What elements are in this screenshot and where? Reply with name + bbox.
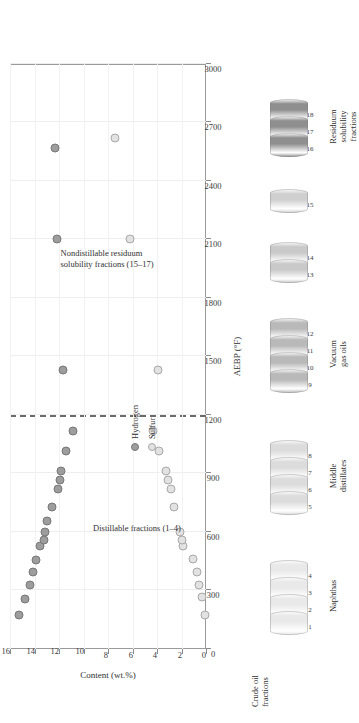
data-point-hydrogen [55,476,64,485]
gridline-horizontal [182,64,183,649]
x-axis-tick-label: 1800 [205,298,222,308]
y-axis-tick [108,649,109,654]
legend-label-hydrogen: Hydrogen [130,405,140,439]
barrel-icon [270,259,308,283]
gridline-horizontal [157,64,158,649]
data-point-hydrogen [43,517,52,526]
y-axis-tick [10,649,11,654]
barrels-header-line1: Crude oil [250,675,260,707]
barrel-stack: 1234 [270,557,310,635]
y-axis-title: Content (wt.%) [80,670,136,680]
barrel-group-label-line: solubility [338,96,348,157]
data-point-hydrogen [58,366,67,375]
barrel-group: 9101112Vacuumgas oils [270,315,310,393]
barrel-icon [270,611,308,635]
data-point-hydrogen [32,556,41,565]
x-axis-tick-label: 600 [207,532,220,542]
hydrogen-marker-icon [131,443,139,451]
data-point-hydrogen [56,466,65,475]
barrel-group: 15 [270,186,310,213]
barrel-number-label: 2 [308,606,312,614]
data-point-sulfur [193,567,202,576]
annotation-nondistillable-line2: solubility fractions (15–17) [60,259,153,270]
barrel-group-label-line: Residuum [328,96,338,157]
gridline-horizontal [10,64,11,649]
gridline-horizontal [84,64,85,649]
data-point-hydrogen [39,535,48,544]
annotation-nondistillable-line1: Nondistillable residuum [60,248,153,259]
data-point-hydrogen [48,502,57,511]
y-axis-tick-label: 16 [2,646,11,656]
legend: Hydrogen Sulfur [130,405,164,451]
barrel-stack: 5678 [270,437,310,515]
barrel-group: 1314 [270,239,310,283]
gridline-horizontal [133,64,134,649]
barrel-stack: 15 [270,186,310,213]
gridline-horizontal [59,64,60,649]
x-axis-title: AEBP (°F) [232,64,242,649]
barrel-number-label: 9 [308,381,312,389]
barrel-icon [270,133,308,157]
data-point-hydrogen [28,567,37,576]
data-point-hydrogen [21,595,30,604]
y-axis-tick-label: 14 [26,646,35,656]
data-point-sulfur [201,610,210,619]
barrel-stack: 161718 [270,96,310,157]
barrel-group-label: Naphthas [328,557,338,635]
sulfur-marker-icon [148,443,156,451]
data-point-sulfur [126,235,135,244]
data-point-sulfur [178,535,187,544]
barrel-icon [270,369,308,393]
x-axis-tick-label: 300 [207,591,220,601]
data-point-sulfur [167,485,176,494]
data-point-sulfur [169,502,178,511]
barrel-group-label: Middledistillates [328,437,348,515]
data-point-hydrogen [53,235,62,244]
y-axis-tick-label: 6 [128,650,132,660]
barrel-group: 161718Residuumsolubilityfractions [270,96,310,157]
barrel-group-label-line: Naphthas [328,557,338,635]
y-axis-tick [59,649,60,654]
x-axis-tick-label: 1500 [205,357,222,367]
barrel-stack: 9101112 [270,315,310,393]
barrel-number-label: 4 [308,572,312,580]
y-axis-tick-label: 8 [104,650,108,660]
data-point-sulfur [110,134,119,143]
data-point-sulfur [195,580,204,589]
barrel-number-label: 3 [308,589,312,597]
data-point-sulfur [189,555,198,564]
y-axis-tick [206,649,207,654]
data-point-hydrogen [40,528,49,537]
y-axis-tick-label: 4 [153,650,157,660]
crude-oil-fraction-barrels: Crude oil fractions 1234Naphthas5678Midd… [250,0,335,723]
x-axis-tick-label: 1200 [205,415,222,425]
barrel-group-label: Vacuumgas oils [328,315,348,393]
y-axis-tick-label: 2 [177,650,181,660]
barrel-icon [270,189,308,213]
barrels-header-line2: fractions [260,675,270,707]
x-axis-tick-label: 2700 [205,123,222,133]
annotation-distillable-fractions: Distillable fractions (1–4) [93,523,181,534]
y-axis-tick-label: 12 [51,646,60,656]
barrels-header: Crude oil fractions [250,675,270,707]
barrel-group: 5678Middledistillates [270,437,310,515]
x-axis-tick-label: 2100 [205,240,222,250]
x-axis-tick-label: 2400 [205,181,222,191]
barrel-group-label-line: distillates [338,437,348,515]
gridline-horizontal [108,64,109,649]
data-point-sulfur [162,466,171,475]
barrel-group-label-line: Middle [328,437,338,515]
barrel-number-label: 1 [308,623,312,631]
x-axis-tick-label: 3000 [205,64,222,74]
legend-item-sulfur: Sulfur [147,405,157,451]
data-point-hydrogen [26,580,35,589]
data-point-sulfur [153,366,162,375]
legend-item-hydrogen: Hydrogen [130,405,140,451]
barrel-group-label: Residuumsolubilityfractions [328,96,359,157]
data-point-hydrogen [69,426,78,435]
barrel-number-label: 7 [308,469,312,477]
barrel-group-label-line: gas oils [338,315,348,393]
y-axis-tick-label: 0 [202,650,206,660]
y-axis-tick-label: 10 [75,646,84,656]
